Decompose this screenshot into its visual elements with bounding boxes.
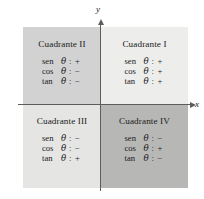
quadrant-III-region: Cuadrante III senθ:− cosθ:− tanθ:+ bbox=[23, 104, 101, 188]
ratio-row: tanθ:+ bbox=[125, 76, 165, 86]
function-name: tan bbox=[42, 153, 61, 163]
ratio-row: tanθ:− bbox=[125, 153, 165, 163]
theta-symbol: θ bbox=[144, 153, 152, 163]
theta-symbol: θ bbox=[144, 143, 152, 153]
ratio-row: cosθ:+ bbox=[125, 66, 165, 76]
x-axis-line bbox=[18, 104, 193, 105]
theta-symbol: θ bbox=[61, 133, 69, 143]
quadrant-III-title: Cuadrante III bbox=[37, 116, 88, 126]
y-axis-label: y bbox=[96, 4, 100, 14]
ratio-row: senθ:− bbox=[42, 133, 82, 143]
function-name: tan bbox=[42, 76, 61, 86]
theta-symbol: θ bbox=[61, 76, 69, 86]
sign-value: + bbox=[158, 143, 165, 153]
ratio-row: senθ:− bbox=[125, 133, 165, 143]
sign-value: − bbox=[158, 153, 165, 163]
quadrant-IV-region: Cuadrante IV senθ:− cosθ:+ tanθ:− bbox=[101, 104, 188, 188]
theta-symbol: θ bbox=[61, 66, 69, 76]
quadrant-I-ratios: senθ:+ cosθ:+ tanθ:+ bbox=[125, 56, 165, 87]
function-name: cos bbox=[125, 66, 144, 76]
sign-value: + bbox=[75, 56, 82, 66]
y-axis-line bbox=[100, 24, 101, 191]
theta-symbol: θ bbox=[61, 153, 69, 163]
function-name: sen bbox=[125, 56, 144, 66]
ratio-row: cosθ:− bbox=[42, 143, 82, 153]
sign-value: − bbox=[75, 76, 82, 86]
function-name: sen bbox=[42, 133, 61, 143]
sign-value: + bbox=[158, 66, 165, 76]
x-axis-label: x bbox=[195, 99, 199, 109]
function-name: tan bbox=[125, 76, 144, 86]
theta-symbol: θ bbox=[144, 133, 152, 143]
theta-symbol: θ bbox=[144, 66, 152, 76]
coordinate-plane: Cuadrante II senθ:+ cosθ:− tanθ:− Cuadra… bbox=[23, 27, 188, 188]
function-name: sen bbox=[125, 133, 144, 143]
ratio-row: senθ:+ bbox=[125, 56, 165, 66]
theta-symbol: θ bbox=[144, 76, 152, 86]
ratio-row: senθ:+ bbox=[42, 56, 82, 66]
sign-value: − bbox=[158, 133, 165, 143]
theta-symbol: θ bbox=[61, 143, 69, 153]
ratio-row: tanθ:− bbox=[42, 76, 82, 86]
function-name: tan bbox=[125, 153, 144, 163]
function-name: cos bbox=[42, 143, 61, 153]
ratio-row: cosθ:− bbox=[42, 66, 82, 76]
sign-value: − bbox=[75, 133, 82, 143]
sign-value: + bbox=[158, 56, 165, 66]
sign-value: − bbox=[75, 143, 82, 153]
theta-symbol: θ bbox=[61, 56, 69, 66]
quadrant-signs-diagram: Cuadrante II senθ:+ cosθ:− tanθ:− Cuadra… bbox=[0, 0, 204, 199]
ratio-row: tanθ:+ bbox=[42, 153, 82, 163]
quadrant-III-ratios: senθ:− cosθ:− tanθ:+ bbox=[42, 133, 82, 164]
sign-value: + bbox=[75, 153, 82, 163]
quadrant-II-region: Cuadrante II senθ:+ cosθ:− tanθ:− bbox=[23, 27, 101, 104]
quadrant-IV-title: Cuadrante IV bbox=[119, 116, 170, 126]
quadrant-II-ratios: senθ:+ cosθ:− tanθ:− bbox=[42, 56, 82, 87]
function-name: cos bbox=[42, 66, 61, 76]
y-axis-arrow-icon bbox=[98, 19, 104, 25]
sign-value: − bbox=[75, 66, 82, 76]
ratio-row: cosθ:+ bbox=[125, 143, 165, 153]
quadrant-I-region: Cuadrante I senθ:+ cosθ:+ tanθ:+ bbox=[101, 27, 188, 104]
quadrant-II-title: Cuadrante II bbox=[38, 39, 85, 49]
sign-value: + bbox=[158, 76, 165, 86]
function-name: sen bbox=[42, 56, 61, 66]
theta-symbol: θ bbox=[144, 56, 152, 66]
function-name: cos bbox=[125, 143, 144, 153]
quadrant-IV-ratios: senθ:− cosθ:+ tanθ:− bbox=[125, 133, 165, 164]
quadrant-I-title: Cuadrante I bbox=[122, 39, 166, 49]
